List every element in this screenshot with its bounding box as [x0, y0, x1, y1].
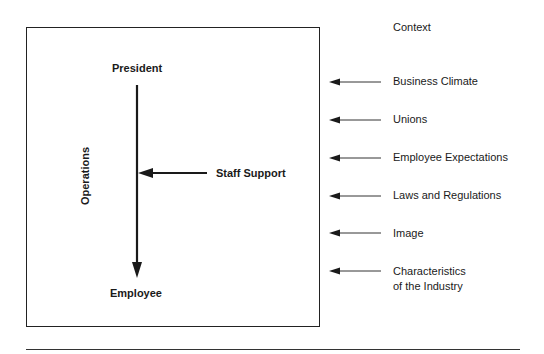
staff-support-arrow — [138, 168, 207, 178]
factor-industry-line1: Characteristics — [393, 265, 466, 278]
context-heading: Context — [393, 21, 431, 34]
factor-business-climate: Business Climate — [393, 75, 478, 88]
president-label: President — [112, 62, 162, 75]
context-arrow-business-climate — [329, 79, 381, 86]
factor-unions: Unions — [393, 113, 427, 126]
bottom-rule — [26, 349, 520, 350]
context-arrow-image — [329, 230, 381, 237]
operations-label: Operations — [79, 147, 91, 205]
factor-laws-and-regulations: Laws and Regulations — [393, 189, 501, 202]
staff-support-label: Staff Support — [216, 167, 286, 180]
context-arrow-laws-and-regulations — [329, 193, 381, 200]
factor-industry-line2: of the Industry — [393, 280, 463, 293]
factor-image: Image — [393, 227, 424, 240]
employee-label: Employee — [110, 287, 162, 300]
operations-arrow — [132, 85, 142, 278]
context-arrow-employee-expectations — [329, 155, 381, 162]
context-arrow-industry — [329, 268, 381, 275]
context-arrow-unions — [329, 117, 381, 124]
factor-employee-expectations: Employee Expectations — [393, 151, 508, 164]
